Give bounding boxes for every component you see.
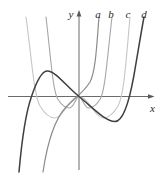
y-axis-label: y bbox=[68, 8, 74, 20]
curve-c bbox=[26, 17, 130, 118]
curve-label-d: d bbox=[141, 8, 147, 20]
power-curves-figure: xyabcd bbox=[0, 0, 161, 175]
plot-svg: xyabcd bbox=[0, 0, 161, 175]
curve-a bbox=[43, 17, 99, 172]
curve-label-c: c bbox=[126, 8, 131, 20]
curve-label-a: a bbox=[95, 8, 101, 20]
x-axis-label: x bbox=[149, 102, 155, 114]
curve-label-b: b bbox=[108, 8, 114, 20]
x-axis-arrow-icon bbox=[148, 94, 155, 99]
y-axis-arrow-icon bbox=[77, 10, 82, 17]
curve-d bbox=[19, 17, 144, 172]
